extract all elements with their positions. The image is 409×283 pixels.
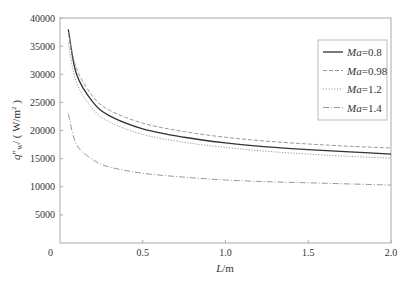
x-tick-label: 1.0	[219, 247, 232, 258]
legend: Ma=0.8Ma=0.98Ma=1.2Ma=1.4	[318, 40, 388, 120]
y-tick-label: 5000	[35, 209, 55, 220]
y-axis: 0500010000150002000025000300003500040000	[30, 13, 63, 259]
legend-label: Ma=1.2	[346, 83, 382, 95]
series-line-ma-1.4	[68, 114, 391, 185]
y-tick-label: 25000	[30, 97, 55, 108]
legend-label: Ma=1.4	[346, 102, 382, 114]
x-tick-label: 2.0	[385, 247, 398, 258]
x-tick-label: 0.5	[137, 247, 150, 258]
legend-label: Ma=0.8	[346, 46, 382, 58]
y-axis-label: q″w/ ( W/m2 )	[10, 100, 24, 160]
x-tick-label: 1.5	[302, 247, 315, 258]
y-tick-label: 30000	[30, 69, 55, 80]
legend-label: Ma=0.98	[346, 65, 388, 77]
y-tick-label: 15000	[30, 153, 55, 164]
x-axis-label: L/m	[215, 262, 234, 274]
y-tick-label: 10000	[30, 181, 55, 192]
y-tick-label: 35000	[30, 41, 55, 52]
y-tick-label: 40000	[30, 13, 55, 24]
y-tick-label: 20000	[30, 125, 55, 136]
y-tick-label: 0	[48, 247, 53, 258]
line-chart: 0500010000150002000025000300003500040000…	[0, 0, 409, 283]
